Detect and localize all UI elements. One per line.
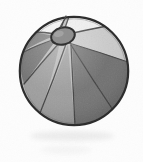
scan-grain <box>0 0 143 162</box>
beach-ball-illustration <box>0 0 143 162</box>
illustration-canvas: Grayscale line drawing of a beach ball w… <box>0 0 143 162</box>
